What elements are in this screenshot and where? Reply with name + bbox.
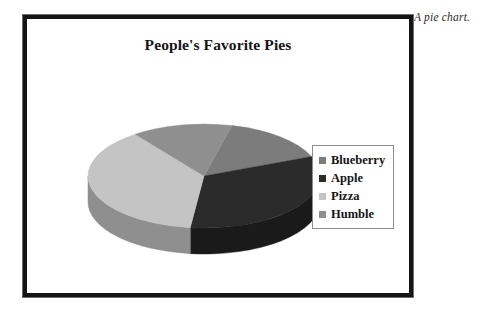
legend-swatch-icon (319, 157, 326, 164)
legend-item: Humble (319, 205, 388, 223)
chart-frame: People's Favorite Pies BlueberryApplePiz… (23, 15, 413, 297)
pie-svg (39, 114, 329, 264)
legend-item-label: Pizza (331, 190, 359, 203)
legend-swatch-icon (319, 211, 326, 218)
pie-chart-graphic (39, 114, 329, 264)
chart-plot-area: People's Favorite Pies BlueberryApplePiz… (27, 19, 409, 293)
figure-page: A pie chart. People's Favorite Pies Blue… (0, 0, 495, 322)
legend-item-label: Apple (331, 172, 363, 185)
legend-swatch-icon (319, 175, 326, 182)
figure-caption: A pie chart. (414, 10, 495, 24)
legend-item-label: Blueberry (331, 154, 385, 167)
chart-title: People's Favorite Pies (27, 36, 409, 54)
legend-swatch-icon (319, 193, 326, 200)
chart-legend: BlueberryApplePizzaHumble (312, 145, 394, 229)
legend-item-label: Humble (331, 208, 374, 221)
legend-item: Apple (319, 169, 388, 187)
legend-item: Blueberry (319, 151, 388, 169)
legend-item: Pizza (319, 187, 388, 205)
